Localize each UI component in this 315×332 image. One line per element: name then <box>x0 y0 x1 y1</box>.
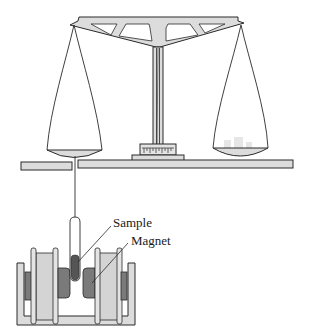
left-electromagnet <box>25 248 70 324</box>
gouy-balance-diagram: Sample Magnet <box>0 0 315 332</box>
left-pan <box>47 25 102 158</box>
sample-label: Sample <box>113 215 152 230</box>
weights <box>224 137 252 148</box>
balance-beam <box>70 17 244 47</box>
sample-tube <box>70 217 80 281</box>
right-pan-with-weights <box>213 25 268 156</box>
sample <box>71 255 79 280</box>
platform <box>21 160 293 170</box>
magnet-label: Magnet <box>131 233 171 248</box>
scale-indicator <box>132 144 184 161</box>
balance-column <box>153 47 163 145</box>
right-electromagnet <box>83 248 127 324</box>
